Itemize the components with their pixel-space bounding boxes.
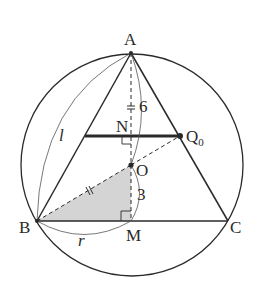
measure-AO: 6 <box>139 97 148 116</box>
point-B <box>35 219 39 223</box>
measure-OM: 3 <box>137 185 146 204</box>
measure-BM: r <box>78 231 85 250</box>
label-Q0: Q0 <box>186 127 204 148</box>
label-C: C <box>230 218 241 237</box>
measure-AB: l <box>59 126 64 145</box>
label-M: M <box>126 226 141 245</box>
equal-tick-on-AO <box>127 106 135 109</box>
label-O: O <box>136 161 148 180</box>
geometry-figure: A B C M O N Q0 6 3 r l <box>0 0 261 305</box>
label-A: A <box>124 30 137 49</box>
diagram-container: A B C M O N Q0 6 3 r l <box>0 0 261 305</box>
label-N: N <box>116 117 128 136</box>
point-O <box>128 162 133 167</box>
label-B: B <box>19 218 30 237</box>
point-A <box>129 51 133 55</box>
point-Q0 <box>177 133 183 139</box>
